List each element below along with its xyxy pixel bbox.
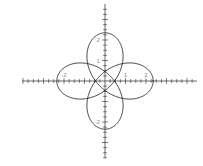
y-tick-label: -2 xyxy=(94,118,100,125)
x-tick-label: 1 xyxy=(124,71,128,78)
parametric-curve-plot: -212 21-2 xyxy=(0,0,203,166)
y-tick-label: 2 xyxy=(97,36,101,43)
y-tick-label: 1 xyxy=(97,57,101,64)
plot-background xyxy=(0,0,203,166)
x-tick-label: 2 xyxy=(144,71,148,78)
x-tick-label: -2 xyxy=(61,71,67,78)
plot-canvas: -212 21-2 xyxy=(0,0,203,166)
